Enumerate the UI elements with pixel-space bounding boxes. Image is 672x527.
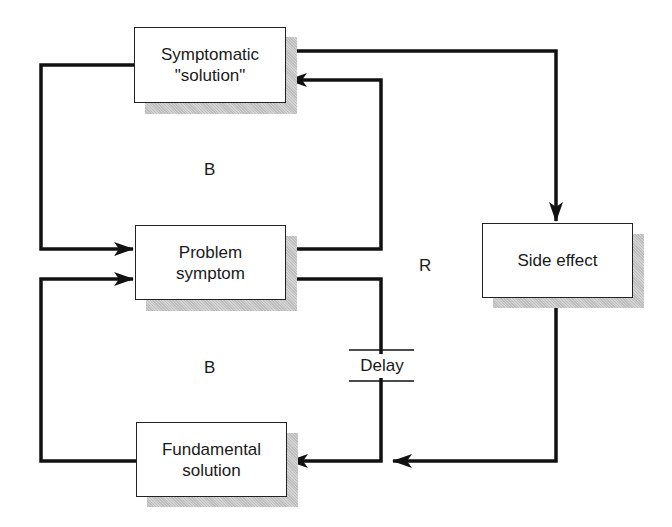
node-label-line1: Symptomatic [161, 44, 259, 65]
loop-label-reinforcing: R [419, 256, 431, 276]
node-label-line1: Problem [176, 242, 245, 263]
loop-label-upper-balancing: B [204, 160, 215, 180]
edge-problem-to-symptomatic [286, 80, 381, 249]
delay-label: Delay [352, 354, 412, 378]
box-fundamental-solution: Fundamental solution [136, 422, 287, 497]
box-side-effect: Side effect [482, 223, 633, 298]
node-label-line2: solution [162, 460, 261, 481]
edge-symptomatic-to-side-effect [286, 51, 556, 221]
box-problem-symptom: Problem symptom [135, 225, 286, 300]
loop-label-lower-balancing: B [204, 358, 215, 378]
node-label-line2: "solution" [161, 65, 259, 86]
edge-side-effect-to-fundamental [393, 297, 556, 461]
node-label-line1: Side effect [517, 250, 597, 271]
node-label-line1: Fundamental [162, 439, 261, 460]
node-label-line2: symptom [176, 263, 245, 284]
edge-symptomatic-to-problem [41, 65, 135, 249]
box-symptomatic-solution: Symptomatic "solution" [134, 27, 286, 103]
edge-fundamental-to-problem [41, 279, 136, 461]
